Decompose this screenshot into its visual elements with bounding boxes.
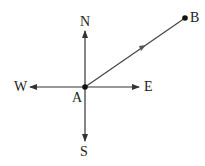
compass-drawing [0, 0, 205, 166]
label-south: S [80, 145, 88, 159]
vector-ab [85, 18, 185, 87]
diagram: N S E W A B [0, 0, 205, 166]
point-a [82, 84, 88, 90]
vector-arrowhead [139, 45, 146, 51]
point-b [182, 15, 188, 21]
label-east: E [144, 80, 153, 94]
label-north: N [80, 15, 90, 29]
label-point-a: A [72, 91, 82, 105]
label-point-b: B [190, 11, 199, 25]
label-west: W [14, 80, 27, 94]
